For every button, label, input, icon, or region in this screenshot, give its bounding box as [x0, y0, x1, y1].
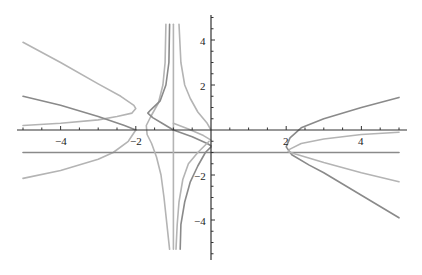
y-tick-label: 4 — [200, 35, 206, 47]
x-tick-label: −4 — [55, 135, 67, 147]
chart-plot-area: −4 −2 2 4 4 2 −2 −4 — [0, 0, 422, 275]
chart-tick-labels: −4 −2 2 4 4 2 −2 −4 — [55, 35, 364, 227]
curve-center-light-right — [179, 24, 211, 130]
curve-right-light — [288, 132, 399, 182]
curve-right-dark — [286, 97, 399, 217]
curve-left-light-upper — [23, 42, 136, 125]
y-tick-label: 2 — [200, 80, 206, 92]
x-tick-label: 4 — [358, 135, 364, 147]
curve-left-light-lower — [23, 130, 136, 178]
curve-center-dark-lower — [180, 147, 211, 249]
x-tick-label: −2 — [130, 135, 142, 147]
y-tick-label: −4 — [194, 215, 206, 227]
curve-center-light-left — [146, 24, 169, 249]
x-tick-label: 2 — [283, 135, 289, 147]
y-tick-label: −2 — [194, 170, 206, 182]
